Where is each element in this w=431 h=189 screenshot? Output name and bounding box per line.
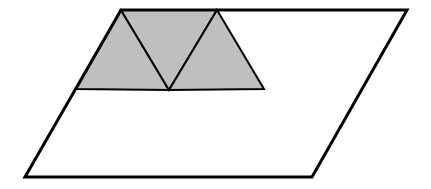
geometry-diagram bbox=[0, 0, 431, 189]
shaded-trapezoid bbox=[76, 10, 264, 90]
